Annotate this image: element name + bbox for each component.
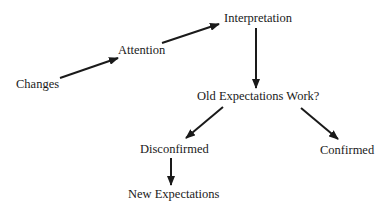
node-interpretation: Interpretation bbox=[224, 11, 292, 25]
arrow-old-expectations-to-disconfirmed bbox=[186, 107, 223, 138]
arrow-attention-to-interpretation bbox=[162, 24, 219, 43]
node-new-expectations: New Expectations bbox=[128, 187, 219, 201]
node-old-expectations-work: Old Expectations Work? bbox=[197, 89, 319, 103]
node-attention: Attention bbox=[118, 43, 165, 57]
arrow-changes-to-attention bbox=[60, 58, 118, 78]
node-disconfirmed: Disconfirmed bbox=[140, 142, 209, 156]
arrow-old-expectations-to-confirmed bbox=[301, 108, 338, 139]
flowchart-canvas: Changes Attention Interpretation Old Exp… bbox=[0, 0, 383, 212]
node-confirmed: Confirmed bbox=[320, 143, 374, 157]
node-changes: Changes bbox=[16, 77, 59, 91]
arrows-layer bbox=[0, 0, 383, 212]
